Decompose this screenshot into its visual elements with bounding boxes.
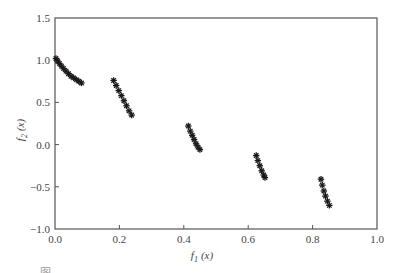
plot-frame: [55, 18, 377, 229]
x-tick-label: 0.4: [177, 233, 191, 245]
y-tick-label: 0.5: [36, 96, 50, 108]
star-marker: [78, 80, 84, 86]
star-marker: [197, 146, 203, 152]
star-marker: [318, 176, 324, 182]
y-tick-label: 0.0: [36, 139, 50, 151]
y-tick-label: 1.0: [36, 54, 50, 66]
x-tick-label: 0.6: [241, 233, 255, 245]
x-tick-label: 0.0: [48, 233, 62, 245]
star-marker: [128, 112, 134, 118]
scatter-chart: 1.51.00.50.0−0.5−1.0 0.00.20.40.60.81.0 …: [0, 0, 396, 273]
data-points: [53, 55, 333, 208]
x-tick-label: 0.8: [306, 233, 320, 245]
y-tick-label: −0.5: [30, 181, 50, 193]
x-axis-label: f1(x): [191, 249, 214, 264]
x-tick-label: 1.0: [370, 233, 384, 245]
y-axis-label: f2(x): [14, 119, 29, 142]
y-tick-label: 1.5: [36, 12, 50, 24]
x-axis: 0.00.20.40.60.81.0: [48, 225, 384, 245]
figure-caption: 图 ...: [40, 266, 370, 273]
x-tick-label: 0.2: [113, 233, 127, 245]
star-marker: [319, 182, 325, 188]
